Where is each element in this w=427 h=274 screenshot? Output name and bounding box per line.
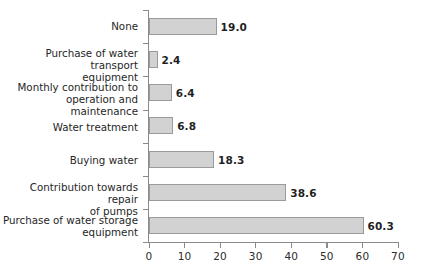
y-axis-tick (143, 43, 148, 44)
x-axis-tick-label: 60 (356, 250, 370, 262)
x-axis-tick-label: 70 (391, 250, 405, 262)
bar-chart: 0 10 20 30 40 50 60 70 None 19.0 Purchas… (0, 0, 427, 274)
x-axis-tick-label: 40 (284, 250, 298, 262)
y-axis-tick (143, 76, 148, 77)
y-axis-tick (143, 242, 148, 243)
category-label-none: None (111, 20, 138, 32)
category-label-water-treatment: Water treatment (53, 121, 138, 133)
category-label-water-storage-equipment: Purchase of water storage equipment (3, 214, 138, 238)
category-label-water-transport-equipment: Purchase of water transport equipment (0, 47, 138, 84)
bar-value-none: 19.0 (221, 21, 247, 33)
bar-value-water-treatment: 6.8 (177, 120, 196, 132)
x-axis-tick-label: 50 (320, 250, 334, 262)
bar-value-water-transport-equipment: 2.4 (162, 54, 181, 66)
x-axis-tick (398, 243, 399, 248)
y-axis-tick (143, 10, 148, 11)
x-axis-tick (291, 243, 292, 248)
bar-none (149, 18, 217, 35)
x-axis-tick (255, 243, 256, 248)
x-axis-tick (326, 243, 327, 248)
y-axis-tick (143, 110, 148, 111)
x-axis-tick-label: 30 (249, 250, 263, 262)
bar-value-water-storage-equipment: 60.3 (368, 220, 394, 232)
bar-value-monthly-contribution: 6.4 (176, 87, 195, 99)
bar-buying-water (149, 151, 214, 168)
x-axis-tick (149, 243, 150, 248)
bar-water-treatment (149, 117, 173, 134)
bar-repair-of-pumps (149, 184, 286, 201)
category-label-repair-of-pumps: Contribution towards repair of pumps (0, 181, 138, 218)
x-axis-tick-label: 0 (146, 250, 153, 262)
y-axis-tick (143, 143, 148, 144)
bar-value-buying-water: 18.3 (218, 154, 244, 166)
x-axis-tick (362, 243, 363, 248)
x-axis-tick (220, 243, 221, 248)
bar-monthly-contribution (149, 84, 172, 101)
bar-water-storage-equipment (149, 217, 364, 234)
x-axis-tick-label: 10 (178, 250, 192, 262)
y-axis-tick (143, 176, 148, 177)
category-label-monthly-contribution: Monthly contribution to operation and ma… (0, 81, 138, 118)
bar-water-transport-equipment (149, 51, 158, 68)
bar-value-repair-of-pumps: 38.6 (290, 187, 316, 199)
category-label-buying-water: Buying water (70, 154, 138, 166)
x-axis-tick-label: 20 (213, 250, 227, 262)
x-axis-tick (184, 243, 185, 248)
y-axis-tick (143, 209, 148, 210)
